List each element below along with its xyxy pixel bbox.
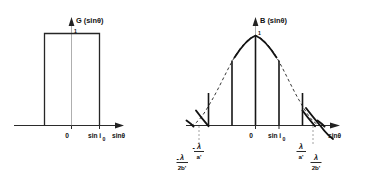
right-plot: B (sinθ) 1 0 sin i 0 sinθ - λ 2b' - λ a' xyxy=(177,16,342,172)
right-tick-label-sin-i0-subscript: 0 xyxy=(283,136,286,142)
annotation-neg-lambda-a-denominator: a' xyxy=(197,153,202,160)
right-origin-label: 0 xyxy=(249,132,253,139)
annotation-neg-lambda-a-sign: - xyxy=(193,143,196,152)
left-tick-label-sin-i0-subscript: 0 xyxy=(103,136,106,142)
left-rectangle-function xyxy=(45,34,100,126)
left-peak-value-label: 1 xyxy=(74,28,77,34)
annotation-pos-lambda-a-denominator: a' xyxy=(299,153,304,160)
annotation-pos-lambda-2b-denominator: 2b' xyxy=(312,164,321,171)
right-peak-value-label: 1 xyxy=(258,30,261,36)
right-x-axis-label: sinθ xyxy=(328,132,342,139)
left-plot: G (sinθ) 1 0 sin i 0 sinθ xyxy=(14,16,126,142)
figure-root: G (sinθ) 1 0 sin i 0 sinθ xyxy=(0,0,381,179)
left-y-axis-arrowhead xyxy=(69,17,75,26)
right-tick-label-sin-i0: sin i xyxy=(268,132,281,139)
annotation-pos-lambda-2b: λ 2b' xyxy=(311,153,322,171)
annotation-neg-lambda-2b: - λ 2b' xyxy=(177,153,189,171)
annotation-neg-lambda-a: - λ a' xyxy=(193,142,205,160)
right-x-axis-arrowhead xyxy=(330,123,340,129)
annotation-neg-lambda-2b-denominator: 2b' xyxy=(178,164,187,171)
left-y-axis-label: G (sinθ) xyxy=(76,16,104,25)
right-y-axis-label: B (sinθ) xyxy=(260,16,288,25)
annotation-pos-lambda-2b-numerator: λ xyxy=(313,153,318,162)
annotation-pos-lambda-a-numerator: λ xyxy=(298,142,303,151)
right-y-axis-arrowhead xyxy=(253,17,259,26)
annotation-neg-lambda-a-numerator: λ xyxy=(196,142,201,151)
annotation-pos-lambda-a: λ a' xyxy=(297,142,307,160)
annotation-neg-lambda-2b-numerator: λ xyxy=(179,153,184,162)
figure-svg: G (sinθ) 1 0 sin i 0 sinθ xyxy=(0,0,381,179)
left-x-axis-arrowhead xyxy=(115,123,124,129)
left-x-axis-label: sinθ xyxy=(112,132,126,139)
left-tick-label-sin-i0: sin i xyxy=(88,132,101,139)
right-envelope-solid-left-tail xyxy=(196,111,209,127)
left-origin-label: 0 xyxy=(65,132,69,139)
